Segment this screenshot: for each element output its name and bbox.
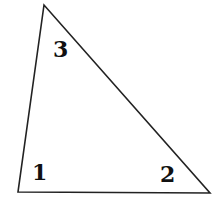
angle-label-3: 3	[53, 38, 68, 60]
angle-label-2: 2	[160, 163, 175, 185]
triangle-diagram: 3 1 2	[0, 0, 221, 212]
angle-label-1: 1	[32, 161, 47, 183]
